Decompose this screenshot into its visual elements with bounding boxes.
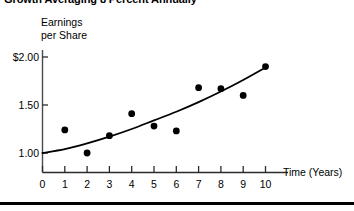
data-point (173, 128, 180, 135)
x-tick-label-10: 10 (260, 179, 272, 190)
y-tick-label-1: 1.50 (1, 100, 39, 111)
x-tick-label-4: 4 (129, 179, 135, 190)
x-tick-label-9: 9 (240, 179, 246, 190)
bottom-divider (0, 202, 354, 205)
x-tick-label-0: 0 (40, 179, 46, 190)
x-axis-caption: Time (Years) (283, 166, 342, 178)
x-tick-label-5: 5 (151, 179, 157, 190)
x-tick-label-3: 3 (106, 179, 112, 190)
data-point (218, 85, 225, 92)
x-tick-label-7: 7 (196, 179, 202, 190)
data-point (262, 63, 269, 70)
data-point (151, 123, 158, 130)
x-tick-label-8: 8 (218, 179, 224, 190)
x-tick-marks (43, 166, 266, 173)
data-point (240, 92, 247, 99)
x-tick-label-6: 6 (173, 179, 179, 190)
chart-figure: Growth Averaging 8 Percent Annually Earn… (0, 0, 354, 211)
data-point (128, 110, 135, 117)
trend-curve (43, 68, 266, 153)
y-tick-label-2: $2.00 (1, 52, 39, 63)
data-point (195, 84, 202, 91)
y-tick-marks (43, 57, 49, 153)
x-tick-label-1: 1 (62, 179, 68, 190)
data-point (106, 132, 113, 139)
data-point (61, 127, 68, 134)
y-tick-label-0: 1.00 (1, 148, 39, 159)
x-tick-label-2: 2 (84, 179, 90, 190)
data-point (84, 150, 91, 157)
